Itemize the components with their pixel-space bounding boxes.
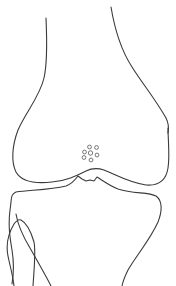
fibula bbox=[7, 214, 51, 286]
tibia-outline bbox=[9, 176, 161, 286]
knee-joint-diagram: knee joint line drawing bbox=[0, 0, 176, 286]
circle-marker bbox=[82, 156, 86, 160]
tibia bbox=[9, 176, 161, 286]
diagram-canvas bbox=[0, 0, 176, 286]
circle-marker bbox=[95, 146, 99, 150]
circle-marker bbox=[83, 150, 87, 154]
circle-marker bbox=[95, 153, 99, 157]
circle-marker bbox=[89, 158, 93, 162]
dot-cluster bbox=[82, 145, 99, 162]
femur-right-outline bbox=[111, 7, 169, 133]
femur-left-outline bbox=[13, 18, 169, 185]
circle-marker bbox=[88, 145, 92, 149]
circle-marker bbox=[88, 151, 92, 155]
